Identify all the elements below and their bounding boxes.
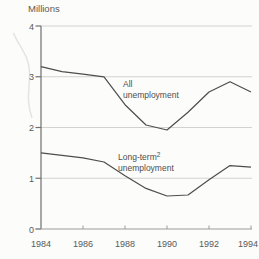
series-label-longterm-text: Long-term: [118, 152, 157, 162]
series-label-longterm-line1: Long-term2: [118, 151, 161, 162]
unemployment-line-chart: Millions 01234 198419861988199019921994 …: [0, 0, 259, 259]
chart-page: Millions 01234 198419861988199019921994 …: [0, 0, 259, 259]
x-axis-tick-labels: 198419861988199019921994: [31, 239, 258, 249]
x-tick-label: 1992: [199, 239, 219, 249]
x-tick-label: 1988: [115, 239, 135, 249]
y-tick-label: 4: [29, 22, 34, 32]
x-tick-label: 1990: [157, 239, 177, 249]
y-axis-tick-labels: 01234: [29, 22, 34, 235]
footnote-superscript: 2: [157, 151, 161, 158]
y-tick-label: 3: [29, 72, 34, 82]
series-label-all-line2: unemployment: [123, 90, 179, 100]
series-label-longterm-line2: unemployment: [118, 163, 174, 173]
y-axis-ticks: [36, 26, 42, 229]
x-tick-label: 1994: [238, 239, 258, 249]
y-tick-label: 1: [29, 174, 34, 184]
y-tick-label: 2: [29, 123, 34, 133]
y-axis-unit-label: Millions: [28, 3, 60, 14]
x-tick-label: 1986: [73, 239, 93, 249]
series-label-all-line1: All: [123, 79, 133, 89]
x-tick-label: 1984: [31, 239, 51, 249]
y-tick-label: 0: [29, 225, 34, 235]
